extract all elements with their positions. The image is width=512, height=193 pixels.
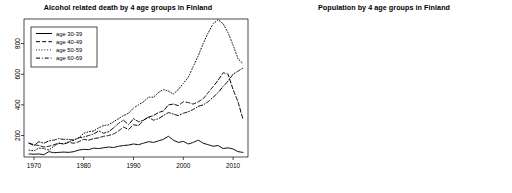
panel-population: Population by 4 age groups in Finland 19… — [256, 0, 512, 193]
chart-alcohol-deaths: 19701980199020002010200400600800age 30-3… — [0, 0, 256, 193]
x-axis-tick-label: 2010 — [226, 162, 241, 169]
panel-alcohol-deaths: Alcohol related death by 4 age groups in… — [0, 0, 256, 193]
legend-label-age-50-59: age 50-59 — [56, 47, 82, 53]
legend-label-age-30-39: age 30-39 — [56, 31, 82, 37]
series-line-age-40-49 — [29, 73, 243, 147]
x-axis-tick-label: 2000 — [176, 162, 191, 169]
chart-population: 1970198019902000201045678age 30-39age 40… — [256, 0, 512, 193]
x-axis-tick-label: 1970 — [27, 162, 42, 169]
legend-label-age-60-69: age 60-69 — [56, 55, 82, 61]
y-axis-tick-label: 800 — [15, 38, 22, 49]
y-axis-tick-label: 600 — [15, 68, 22, 79]
legend-label-age-40-49: age 40-49 — [56, 39, 82, 45]
x-axis-tick-label: 1980 — [77, 162, 92, 169]
x-axis-tick-label: 1990 — [126, 162, 141, 169]
figure-container: Alcohol related death by 4 age groups in… — [0, 0, 512, 193]
y-axis-tick-label: 200 — [15, 130, 22, 141]
y-axis-tick-label: 400 — [15, 99, 22, 110]
panel-title-alcohol-deaths: Alcohol related death by 4 age groups in… — [0, 3, 256, 13]
panel-title-population: Population by 4 age groups in Finland — [256, 3, 512, 13]
